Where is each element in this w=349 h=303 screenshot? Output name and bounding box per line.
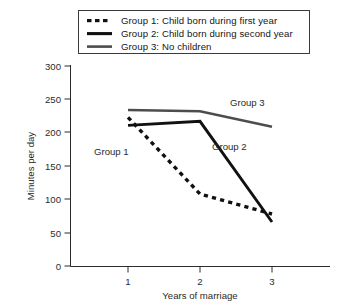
- y-tick-label-150: 150: [45, 161, 61, 172]
- y-tick-label-300: 300: [45, 61, 61, 72]
- y-tick-label-250: 250: [45, 94, 61, 105]
- x-tick-label-1: 1: [125, 276, 130, 287]
- y-axis-title: Minutes per day: [25, 132, 36, 200]
- x-axis-ticks: [128, 267, 272, 273]
- chart-plot-area: 300 250 200 150 100 50 0 1 2 3 Minutes p…: [0, 0, 349, 303]
- x-tick-label-2: 2: [197, 276, 202, 287]
- y-tick-label-0: 0: [56, 261, 61, 272]
- annotation-group-3: Group 3: [230, 97, 265, 108]
- x-axis-title: Years of marriage: [162, 290, 237, 301]
- x-tick-label-3: 3: [269, 276, 274, 287]
- y-axis-ticks: [65, 66, 71, 266]
- y-tick-label-50: 50: [50, 228, 61, 239]
- data-series-layer: [128, 110, 272, 222]
- annotation-group-2: Group 2: [212, 141, 247, 152]
- y-tick-label-100: 100: [45, 194, 61, 205]
- y-tick-label-200: 200: [45, 127, 61, 138]
- series-line-group-1: [128, 117, 272, 214]
- annotation-group-1: Group 1: [94, 146, 129, 157]
- chart-figure: Group 1: Child born during first year Gr…: [0, 0, 349, 303]
- series-line-group-2: [128, 121, 272, 222]
